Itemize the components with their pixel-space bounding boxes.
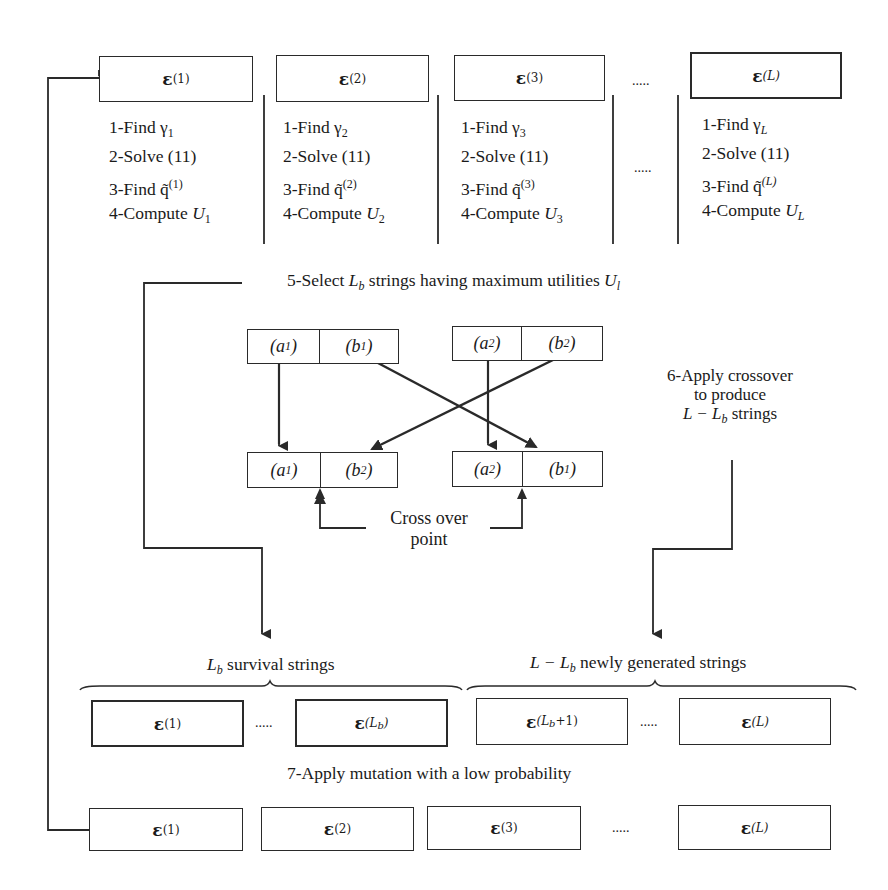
step5-select-label: 5-Select Lb strings having maximum utili… bbox=[287, 270, 620, 294]
steps-column-3: 1-Find γ3 2-Solve (11) 3-Find q̃(3) 4-Co… bbox=[461, 113, 563, 227]
gene-b: (b2) bbox=[321, 453, 397, 487]
steps-column-1: 1-Find γ1 2-Solve (11) 3-Find q̃(1) 4-Co… bbox=[109, 113, 211, 227]
step-solve: 2-Solve (11) bbox=[109, 142, 211, 171]
steps-column-2: 1-Find γ2 2-Solve (11) 3-Find q̃(2) 4-Co… bbox=[283, 113, 385, 227]
gene-b: (b2) bbox=[522, 327, 602, 360]
gene-a: (a1) bbox=[248, 330, 320, 363]
ellipsis: ..... bbox=[255, 715, 273, 731]
survival-string-1: ε(1) bbox=[91, 700, 244, 747]
step-compute: 4-Compute UL bbox=[702, 196, 804, 225]
step-find-q: 3-Find q̃(1) bbox=[109, 170, 211, 199]
step-compute: 4-Compute U3 bbox=[461, 199, 563, 228]
step-find-q: 3-Find q̃(L) bbox=[702, 167, 804, 196]
step-find-gamma: 1-Find γ2 bbox=[283, 113, 385, 142]
string-box-L: ε(L) bbox=[690, 52, 842, 99]
parent-chromosome-2: (a2) (b2) bbox=[452, 326, 603, 361]
gene-a: (a1) bbox=[248, 453, 321, 487]
ellipsis: ..... bbox=[634, 160, 652, 176]
step-compute: 4-Compute U1 bbox=[109, 199, 211, 228]
step7-mutation-label: 7-Apply mutation with a low probability bbox=[287, 763, 571, 784]
step-solve: 2-Solve (11) bbox=[461, 142, 563, 171]
step-find-q: 3-Find q̃(3) bbox=[461, 170, 563, 199]
mutated-string-1: ε(1) bbox=[89, 808, 243, 851]
survival-strings-label: Lb survival strings bbox=[207, 654, 335, 678]
step-solve: 2-Solve (11) bbox=[702, 139, 804, 168]
mutated-string-L: ε(L) bbox=[678, 805, 831, 850]
parent-chromosome-1: (a1) (b1) bbox=[247, 329, 399, 364]
survival-string-Lb: ε(Lb) bbox=[295, 699, 448, 747]
string-box-1: ε(1) bbox=[99, 56, 253, 102]
step-find-gamma: 1-Find γ1 bbox=[109, 113, 211, 142]
string-symbol: ε bbox=[162, 69, 172, 89]
ellipsis: ..... bbox=[640, 714, 658, 730]
string-box-2: ε(2) bbox=[276, 55, 429, 102]
child-chromosome-2: (a2) (b1) bbox=[452, 451, 603, 487]
string-symbol: ε bbox=[339, 69, 349, 89]
gene-a: (a2) bbox=[453, 327, 522, 360]
step-compute: 4-Compute U2 bbox=[283, 199, 385, 228]
steps-column-L: 1-Find γL 2-Solve (11) 3-Find q̃(L) 4-Co… bbox=[702, 110, 804, 224]
step6-crossover-label: 6-Apply crossover to produce L − Lb stri… bbox=[650, 366, 810, 429]
child-chromosome-1: (a1) (b2) bbox=[247, 452, 398, 488]
gene-b: (b1) bbox=[320, 330, 398, 363]
newly-generated-strings-label: L − Lb newly generated strings bbox=[530, 652, 746, 676]
ellipsis: ..... bbox=[612, 820, 630, 836]
ellipsis: ..... bbox=[632, 73, 650, 89]
mutated-string-3: ε(3) bbox=[427, 806, 581, 850]
step-find-gamma: 1-Find γ3 bbox=[461, 113, 563, 142]
step-solve: 2-Solve (11) bbox=[283, 142, 385, 171]
gene-b: (b1) bbox=[523, 452, 602, 486]
new-string-L: ε(L) bbox=[679, 698, 831, 745]
gene-a: (a2) bbox=[453, 452, 523, 486]
crossover-point-label: Cross over point bbox=[370, 508, 488, 550]
step-find-q: 3-Find q̃(2) bbox=[283, 170, 385, 199]
mutated-string-2: ε(2) bbox=[261, 807, 414, 851]
string-symbol: ε bbox=[516, 68, 526, 88]
string-symbol: ε bbox=[752, 66, 762, 86]
step-find-gamma: 1-Find γL bbox=[702, 110, 804, 139]
new-string-Lb-plus-1: ε(Lb+1) bbox=[476, 698, 628, 745]
string-box-3: ε(3) bbox=[454, 55, 605, 101]
